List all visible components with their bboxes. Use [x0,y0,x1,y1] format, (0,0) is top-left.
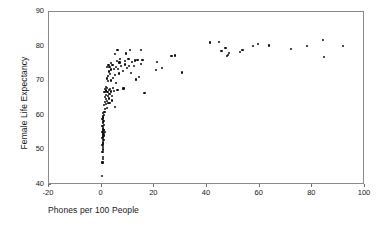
y-tick-label: 40 [22,179,44,188]
data-point [111,99,113,101]
data-point [126,67,128,69]
data-point [113,90,115,92]
data-point [106,77,108,79]
data-point [108,66,110,68]
data-point [342,45,344,47]
x-tick-mark [206,184,207,187]
x-tick-label: 80 [296,188,326,197]
data-point [110,79,112,81]
x-tick-label: -20 [33,188,63,197]
data-point [103,111,105,113]
data-point [218,41,220,43]
data-point [113,68,115,70]
data-point [114,106,116,108]
data-point [115,66,117,68]
scatter-chart: Female Life Expectancy Phones per 100 Pe… [0,0,387,233]
data-point [118,72,120,74]
data-point [109,102,111,104]
data-point [323,56,325,58]
data-point [116,49,118,51]
data-point [155,69,157,71]
data-point [122,70,124,72]
data-point [133,65,135,67]
data-point [140,49,142,51]
x-tick-mark [48,184,49,187]
data-point [124,63,126,65]
data-point [322,39,324,41]
data-point [108,70,110,72]
x-tick-mark [259,184,260,187]
data-point [117,68,119,70]
data-point [128,65,130,67]
data-point [103,114,105,116]
data-point [136,59,138,61]
data-point [227,54,229,56]
data-point [290,48,292,50]
x-axis-title: Phones per 100 People [48,205,139,215]
data-point [107,75,109,77]
data-point [114,53,116,55]
data-point [115,82,117,84]
data-point [109,73,111,75]
data-point [161,67,163,69]
data-point [156,61,158,63]
data-point [174,54,176,56]
data-point [181,71,183,73]
data-point [101,161,103,163]
data-point [107,80,109,82]
data-point [120,65,122,67]
data-point [257,43,259,45]
data-point [127,58,129,60]
data-point [252,45,254,47]
data-point [112,77,114,79]
data-point [124,60,126,62]
data-point [118,61,120,63]
data-point [114,74,116,76]
data-point [102,139,104,141]
x-tick-mark [153,184,154,187]
data-point [101,151,103,153]
x-tick-mark [364,184,365,187]
x-tick-label: 0 [86,188,116,197]
data-point [110,90,112,92]
data-point [131,61,133,63]
x-tick-label: 20 [138,188,168,197]
data-point [111,64,113,66]
data-point [306,45,308,47]
data-point [140,63,142,65]
y-tick-label: 60 [22,110,44,119]
x-tick-label: 60 [244,188,274,197]
y-tick-label: 50 [22,144,44,153]
data-point [241,49,243,51]
data-point [110,68,112,70]
data-point [130,72,132,74]
data-point [103,124,105,126]
data-point [170,55,172,57]
x-tick-label: 40 [191,188,221,197]
data-point [135,78,137,80]
data-point [125,52,127,54]
x-tick-label: 100 [349,188,379,197]
data-point [209,41,211,43]
data-point [102,158,104,160]
x-tick-mark [311,184,312,187]
data-point [105,94,107,96]
y-tick-label: 70 [22,75,44,84]
data-point [138,76,140,78]
data-point [129,49,131,51]
data-point [268,44,270,46]
data-point [101,175,103,177]
data-point [220,50,222,52]
data-point [141,59,143,61]
plot-area [48,11,364,184]
data-point [106,107,108,109]
data-point [122,87,124,89]
y-tick-label: 90 [22,6,44,15]
x-tick-mark [101,184,102,187]
data-point [239,51,241,53]
data-point [111,95,113,97]
data-point [119,58,121,60]
data-point [112,87,114,89]
data-point [116,89,118,91]
y-tick-label: 80 [22,41,44,50]
